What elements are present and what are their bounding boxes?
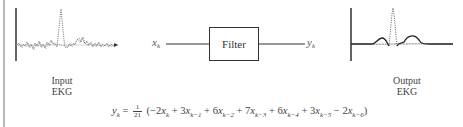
filter-block: Filter <box>209 27 259 61</box>
output-label-line2: EKG <box>385 86 429 97</box>
input-ekg-plot <box>16 8 118 61</box>
equation-term-6: − 2xk−6 <box>334 105 364 116</box>
equation-term-4: + 6xk−4 <box>269 105 299 116</box>
equation-term-2: + 6xk−2 <box>204 105 234 116</box>
output-ekg-plot <box>351 8 453 61</box>
filter-equation: yk = 1 21 (−2xk + 3xk−1 + 6xk−2 + 7xk−3 … <box>112 104 367 119</box>
output-signal-label: yk <box>307 36 315 50</box>
input-ekg-label: Input EKG <box>42 75 82 97</box>
input-signal-label: xk <box>152 36 160 50</box>
filter-label: Filter <box>222 38 246 50</box>
input-label-line2: EKG <box>42 86 82 97</box>
equation-term-5: + 3xk−5 <box>301 105 331 116</box>
fraction-1-21: 1 21 <box>133 104 142 119</box>
output-ekg-label: Output EKG <box>385 75 429 97</box>
equation-term-0: (−2xk <box>147 105 169 116</box>
equation-term-3: + 7xk−3 <box>237 105 267 116</box>
output-label-line1: Output <box>385 75 429 86</box>
input-noisy-waveform <box>17 9 118 49</box>
equation-term-1: + 3xk−1 <box>172 105 202 116</box>
input-label-line1: Input <box>42 75 82 86</box>
